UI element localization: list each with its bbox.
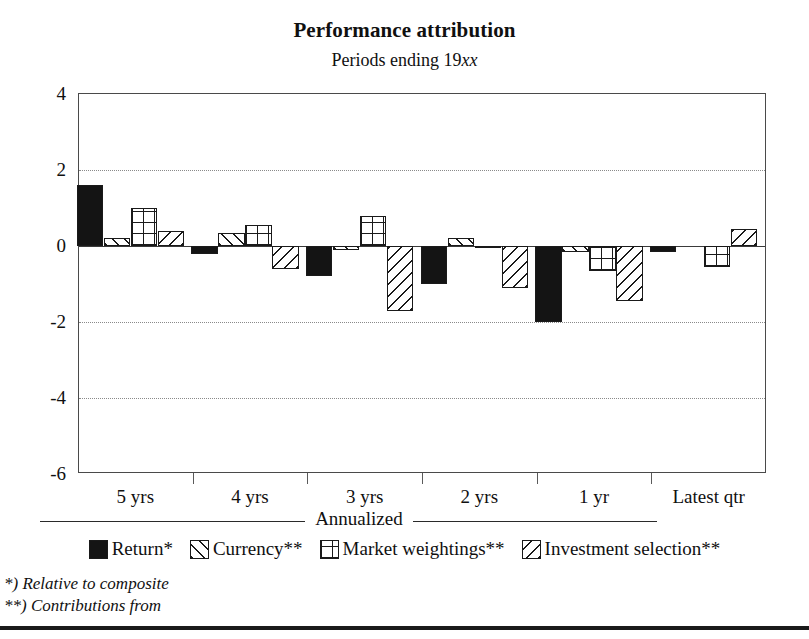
bar	[448, 238, 475, 246]
bar	[502, 246, 529, 288]
legend-swatch-icon	[522, 540, 541, 559]
y-axis-tick-label: 4	[0, 84, 66, 103]
chart-page: Performance attribution Periods ending 1…	[0, 0, 809, 639]
page-subtitle: Periods ending 19xx	[0, 50, 809, 71]
page-title: Performance attribution	[0, 18, 809, 43]
legend-item-label: Currency**	[213, 538, 303, 560]
legend-item-label: Market weightings**	[343, 538, 505, 560]
bar	[104, 238, 131, 246]
legend-item[interactable]: Return*	[89, 538, 173, 560]
x-axis-tick-label: Latest qtr	[673, 486, 745, 508]
x-axis-tick-mark	[307, 473, 308, 484]
bar	[77, 185, 104, 246]
x-axis-tick-label: 1 yr	[579, 486, 609, 508]
legend-swatch-icon	[190, 540, 209, 559]
bar	[131, 208, 158, 246]
chart-legend: Return*Currency**Market weightings**Inve…	[0, 538, 809, 560]
footnote-relative-to-composite: *) Relative to composite	[4, 574, 169, 594]
legend-item[interactable]: Market weightings**	[320, 538, 505, 560]
y-axis-tick-label: -2	[0, 312, 66, 331]
bar	[562, 246, 589, 252]
x-axis-tick-mark	[651, 473, 652, 484]
bar	[306, 246, 333, 276]
bar	[475, 246, 502, 248]
x-axis-tick-label: 2 yrs	[461, 486, 498, 508]
bar	[158, 231, 185, 246]
legend-item-label: Return*	[112, 538, 173, 560]
footnote-contributions-from: **) Contributions from	[4, 596, 161, 616]
subtitle-italic: xx	[462, 50, 478, 70]
legend-swatch-icon	[89, 540, 108, 559]
annualized-bracket-label: Annualized	[315, 508, 403, 530]
bar	[421, 246, 448, 284]
gridline	[79, 398, 765, 399]
bar	[272, 246, 299, 269]
annualized-rule-left	[40, 521, 305, 522]
bar	[218, 233, 245, 246]
bar	[245, 225, 272, 246]
x-axis-tick-label: 3 yrs	[346, 486, 383, 508]
x-axis-tick-mark	[422, 473, 423, 484]
y-axis-tick-label: -6	[0, 464, 66, 483]
bar	[731, 229, 758, 246]
plot-area	[78, 93, 766, 473]
bar	[650, 246, 677, 252]
gridline	[79, 322, 765, 323]
legend-item[interactable]: Investment selection**	[522, 538, 721, 560]
x-axis-tick-mark	[193, 473, 194, 484]
x-axis-tick-label: 4 yrs	[231, 486, 268, 508]
y-axis-tick-label: -4	[0, 388, 66, 407]
bar	[616, 246, 643, 301]
x-axis-tick-mark	[537, 473, 538, 484]
subtitle-prefix: Periods ending 19	[332, 50, 462, 70]
legend-swatch-icon	[320, 540, 339, 559]
legend-item-label: Investment selection**	[545, 538, 721, 560]
y-axis-tick-label: 2	[0, 160, 66, 179]
gridline	[79, 170, 765, 171]
bar	[704, 246, 731, 267]
bar	[333, 246, 360, 250]
x-axis-tick-label: 5 yrs	[117, 486, 154, 508]
bar	[589, 246, 616, 271]
y-axis-tick-label: 0	[0, 236, 66, 255]
annualized-rule-right	[413, 521, 657, 522]
legend-item[interactable]: Currency**	[190, 538, 303, 560]
bar	[387, 246, 414, 311]
bottom-rule	[0, 626, 809, 630]
bar	[360, 216, 387, 246]
bar	[535, 246, 562, 322]
bar	[191, 246, 218, 254]
